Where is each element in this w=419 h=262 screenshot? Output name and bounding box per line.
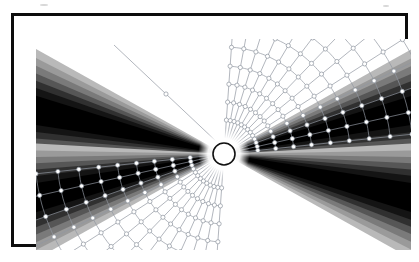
ray-node-marker <box>341 110 345 114</box>
ray-node-marker <box>301 113 305 117</box>
ray-node-marker <box>64 207 68 211</box>
ray-node-marker <box>81 242 85 246</box>
ray-node-marker <box>400 39 404 42</box>
ray-node-marker <box>148 199 152 203</box>
ray-node-marker <box>173 202 177 206</box>
ray-node-marker <box>157 237 161 241</box>
ray-node-marker <box>179 208 183 212</box>
ray-node-marker <box>305 123 309 127</box>
ray-node-marker <box>168 196 172 200</box>
ray-node-marker <box>258 115 262 119</box>
ray-node-marker <box>154 208 158 212</box>
ray-node-marker <box>271 102 275 106</box>
ray-node-marker <box>121 187 125 191</box>
ray-node-marker <box>290 96 294 100</box>
ray-node-marker <box>253 111 257 115</box>
ray-node-marker <box>72 225 76 229</box>
ray-node-marker <box>254 50 258 54</box>
ray-node-marker <box>182 185 186 189</box>
ray-node-marker <box>59 189 63 193</box>
ray-node-marker <box>264 96 268 100</box>
ray-node-marker <box>258 92 262 96</box>
ray-node-marker <box>305 84 309 88</box>
ray-node-marker <box>132 210 136 214</box>
ray-node-marker <box>217 222 221 226</box>
ray-node-marker <box>154 167 158 171</box>
ray-node-marker <box>285 121 289 125</box>
ray-node-marker <box>97 165 101 169</box>
ray-node-marker <box>212 203 216 207</box>
ray-node-marker <box>170 157 174 161</box>
ray-node-marker <box>345 73 349 77</box>
ray-node-marker <box>226 100 230 104</box>
ray-node-marker <box>232 101 236 105</box>
ray-node-marker <box>308 133 312 137</box>
ray-node-marker <box>84 200 88 204</box>
ray-node-marker <box>229 45 233 49</box>
ray-node-marker <box>189 159 193 163</box>
ray-node-marker <box>335 97 339 101</box>
ray-node-marker <box>388 134 392 138</box>
ray-node-marker <box>52 235 56 239</box>
ray-node-marker <box>310 39 314 40</box>
ray-node-marker <box>277 60 281 64</box>
ray-node-marker <box>169 222 173 226</box>
ray-node-marker <box>276 108 280 112</box>
ray-node-marker <box>91 216 95 220</box>
ray-node-marker <box>271 135 275 139</box>
ray-node-marker <box>56 169 60 173</box>
ray-node-marker <box>109 207 113 211</box>
ray-node-marker <box>406 111 410 115</box>
ray-node-marker <box>163 190 167 194</box>
ray-node-marker <box>134 161 138 165</box>
ray-node-marker <box>345 124 349 128</box>
ray-node-marker <box>139 220 143 224</box>
ray-node-marker <box>171 163 175 167</box>
ray-node-marker <box>44 215 48 219</box>
ray-node-marker <box>116 163 120 167</box>
ray-node-marker <box>238 65 242 69</box>
ray-node-marker <box>159 183 163 187</box>
ray-node-marker <box>319 72 323 76</box>
ray-node-marker <box>243 104 247 108</box>
figure-frame <box>11 13 408 247</box>
ray-node-marker <box>152 159 156 163</box>
ray-node-marker <box>323 47 327 51</box>
ray-node-marker <box>326 128 330 132</box>
ray-node-marker <box>227 82 231 86</box>
ray-node-marker <box>218 204 222 208</box>
ray-node-marker <box>266 124 270 128</box>
figure-page <box>0 0 419 262</box>
ray-node-marker <box>126 199 130 203</box>
ray-node-marker <box>286 44 290 48</box>
ray-node-marker <box>143 191 147 195</box>
ray-node-marker <box>283 89 287 93</box>
ray-node-marker <box>224 118 228 122</box>
ray-node-marker <box>290 137 294 141</box>
ray-node-marker <box>273 39 277 41</box>
ray-node-marker <box>201 219 205 223</box>
ray-node-marker <box>178 180 182 184</box>
ray-node-marker <box>124 232 128 236</box>
ray-node-marker <box>312 94 316 98</box>
ray-node-marker <box>363 62 367 66</box>
scan-artifact-top <box>0 0 419 12</box>
ray-node-marker <box>216 240 220 244</box>
ray-node-marker <box>38 193 42 197</box>
ray-node-marker <box>400 89 404 93</box>
lensing-diagram-svg <box>36 39 411 253</box>
ray-node-marker <box>206 238 210 242</box>
ray-node-marker <box>237 102 241 106</box>
ray-node-marker <box>381 50 385 54</box>
ray-node-marker <box>372 79 376 83</box>
ray-node-marker <box>116 220 120 224</box>
ray-node-marker <box>392 69 396 73</box>
ray-node-marker <box>186 232 190 236</box>
ray-node-marker <box>269 129 273 133</box>
ray-node-marker <box>281 114 285 118</box>
ray-node-marker <box>385 115 389 119</box>
ray-node-marker <box>196 236 200 240</box>
figure-canvas <box>36 39 411 253</box>
ray-node-marker <box>220 186 224 190</box>
ray-node-marker <box>177 228 181 232</box>
